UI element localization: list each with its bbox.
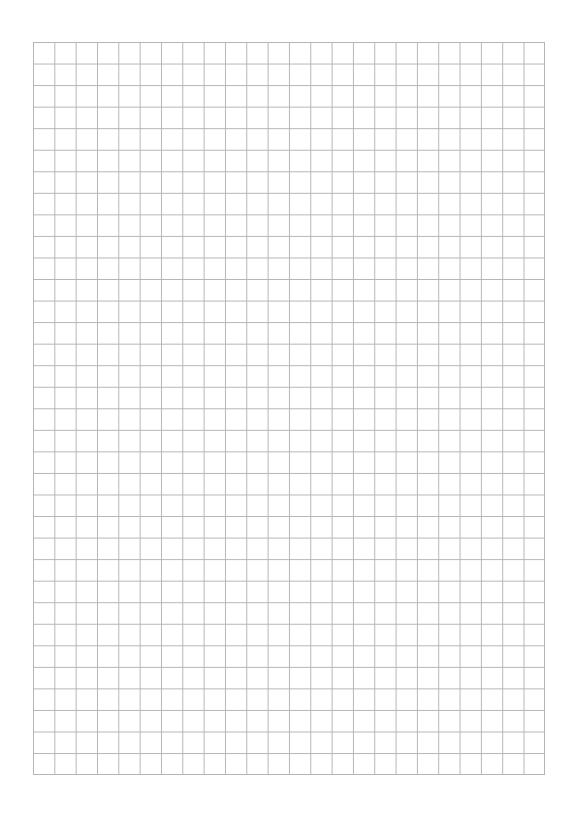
page-canvas — [0, 0, 573, 816]
graph-paper-grid — [33, 42, 545, 775]
